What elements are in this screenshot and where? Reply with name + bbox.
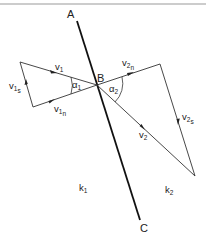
- label-a: A: [67, 8, 75, 20]
- label-c: C: [140, 222, 148, 234]
- label-alpha1: α1: [72, 79, 82, 91]
- vector-v1n: [33, 85, 97, 107]
- label-v2n: v2n: [122, 57, 134, 71]
- refraction-diagram: A B C v1 v1s v1n α1 v2n α2 v2s v2 k1 k2: [0, 0, 206, 241]
- right-velocity-triangle: [97, 64, 195, 176]
- label-v1: v1: [55, 61, 64, 73]
- arrow-v2s-icon: [177, 119, 180, 126]
- arrow-v2n-icon: [127, 72, 134, 76]
- label-b: B: [97, 72, 104, 84]
- label-region-k1: k1: [79, 182, 88, 194]
- label-alpha2: α2: [109, 83, 119, 95]
- label-region-k2: k2: [165, 184, 174, 196]
- vector-v1s: [20, 62, 33, 107]
- label-v1s: v1s: [9, 80, 21, 94]
- label-v1n: v1n: [54, 103, 66, 117]
- label-v2s: v2s: [182, 111, 194, 125]
